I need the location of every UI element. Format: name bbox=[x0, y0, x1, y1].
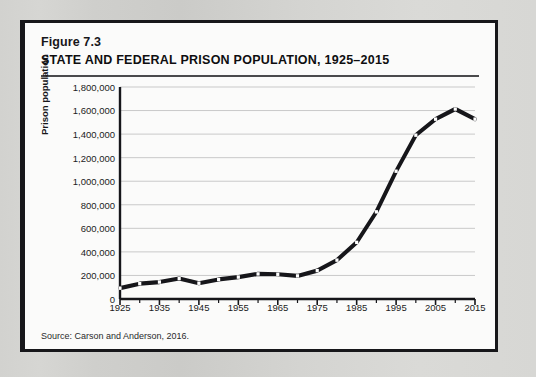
x-axis-tick-label: 2005 bbox=[425, 302, 446, 313]
y-axis-tick-label: 1,200,000 bbox=[73, 152, 115, 163]
y-axis-tick-label: 200,000 bbox=[81, 270, 115, 281]
x-axis-tick-label: 1945 bbox=[188, 302, 209, 313]
figure-content: Figure 7.3 STATE AND FEDERAL PRISON POPU… bbox=[25, 23, 495, 349]
data-point-marker bbox=[296, 274, 299, 277]
x-axis-tick-labels: 1925193519451955196519751985199520052015 bbox=[120, 299, 475, 315]
y-axis-tick-label: 1,600,000 bbox=[73, 105, 115, 116]
data-point-marker bbox=[276, 272, 279, 275]
x-axis-tick-label: 1985 bbox=[346, 302, 367, 313]
x-axis-tick-label: 1935 bbox=[149, 302, 170, 313]
x-axis-tick-label: 1955 bbox=[228, 302, 249, 313]
data-point-marker bbox=[118, 286, 121, 289]
data-point-marker bbox=[197, 281, 200, 284]
y-axis-tick-labels: 0200,000400,000600,000800,0001,000,0001,… bbox=[57, 87, 119, 299]
prison-population-line bbox=[120, 109, 475, 288]
data-point-marker bbox=[138, 282, 141, 285]
data-point-marker bbox=[316, 269, 319, 272]
line-chart-svg bbox=[120, 87, 475, 299]
data-point-marker bbox=[473, 117, 476, 120]
y-axis-tick-label: 800,000 bbox=[81, 199, 115, 210]
data-point-marker bbox=[217, 278, 220, 281]
figure-title: STATE AND FEDERAL PRISON POPULATION, 192… bbox=[41, 52, 479, 68]
x-axis-tick-label: 1975 bbox=[307, 302, 328, 313]
x-axis-tick-label: 1995 bbox=[386, 302, 407, 313]
data-point-marker bbox=[335, 258, 338, 261]
data-point-markers bbox=[118, 107, 476, 290]
y-axis-tick-label: 1,000,000 bbox=[73, 176, 115, 187]
figure-label: Figure 7.3 bbox=[41, 35, 479, 51]
y-axis-label: Prison population bbox=[39, 121, 50, 135]
data-point-marker bbox=[355, 241, 358, 244]
y-axis-tick-label: 400,000 bbox=[81, 246, 115, 257]
data-point-marker bbox=[454, 107, 457, 110]
y-axis-tick-label: 600,000 bbox=[81, 223, 115, 234]
data-point-marker bbox=[434, 117, 437, 120]
chart-plot-area: Prison population 0200,000400,000600,000… bbox=[41, 87, 479, 299]
data-point-marker bbox=[375, 210, 378, 213]
data-point-marker bbox=[414, 133, 417, 136]
y-axis-tick-label: 1,400,000 bbox=[73, 128, 115, 139]
y-axis-tick-label: 1,800,000 bbox=[73, 81, 115, 92]
figure-box: Figure 7.3 STATE AND FEDERAL PRISON POPU… bbox=[20, 20, 498, 352]
chart-gridlines bbox=[120, 87, 475, 299]
x-axis-tick-label: 1965 bbox=[267, 302, 288, 313]
data-point-marker bbox=[395, 169, 398, 172]
data-point-marker bbox=[178, 277, 181, 280]
x-axis-tick-label: 1925 bbox=[109, 302, 130, 313]
data-point-marker bbox=[158, 280, 161, 283]
x-axis-tick-label: 2015 bbox=[464, 302, 485, 313]
chart-canvas bbox=[120, 87, 475, 299]
data-point-marker bbox=[256, 272, 259, 275]
data-point-marker bbox=[237, 275, 240, 278]
title-divider bbox=[41, 75, 479, 77]
source-note: Source: Carson and Anderson, 2016. bbox=[41, 331, 189, 341]
